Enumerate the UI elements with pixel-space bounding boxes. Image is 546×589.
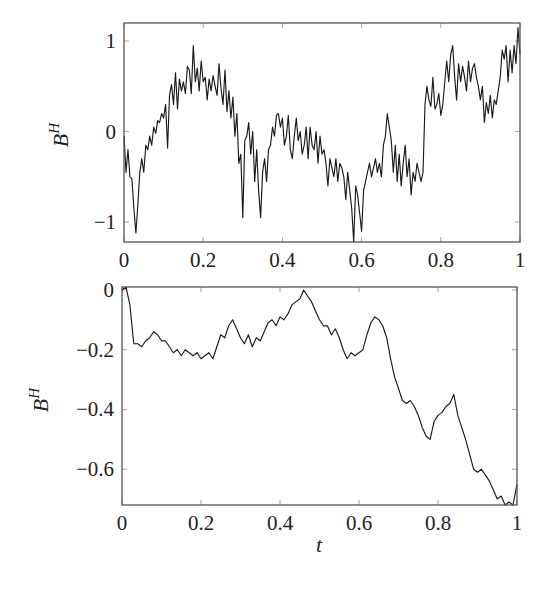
x-tick-label: 0.4 [267,511,294,535]
y-tick-label: 1 [106,29,117,53]
x-tick-label: 0.8 [425,511,451,535]
top-chart-ticks [124,23,520,242]
svg-text:BH: BH [46,122,73,147]
top-chart: 00.20.40.60.81 −101 BH [46,23,525,272]
figure: 00.20.40.60.81 −101 BH 00.20.40.60.81 −0… [0,0,546,589]
y-tick-label: −0.6 [76,457,114,481]
x-tick-label: 0 [117,511,128,535]
y-axis-label-base: B [48,134,73,147]
top-chart-y-axis-label: BH [46,122,73,147]
y-tick-label: 0 [106,120,117,144]
x-tick-label: 1 [512,511,523,535]
x-tick-label: 1 [515,248,526,272]
y-axis-label-base: B [28,399,53,412]
bottom-chart-y-tick-labels: −0.6−0.4−0.20 [76,278,115,481]
y-tick-label: −0.2 [76,338,114,362]
top-chart-frame [124,23,520,242]
x-tick-label: 0.6 [346,511,372,535]
y-axis-label-sup: H [26,387,42,400]
y-tick-label: 0 [104,278,115,302]
top-chart-line [124,28,520,243]
bottom-chart: 00.20.40.60.81 −0.6−0.4−0.20 BH t [26,278,522,557]
y-tick-label: −1 [94,210,116,234]
bottom-chart-line [122,287,517,505]
x-tick-label: 0.8 [428,248,454,272]
y-axis-label-sup: H [46,122,62,135]
top-chart-y-tick-labels: −101 [94,29,116,234]
x-tick-label: 0.6 [348,248,374,272]
bottom-chart-y-axis-label: BH [26,387,53,412]
top-chart-x-tick-labels: 00.20.40.60.81 [119,248,526,272]
y-tick-label: −0.4 [76,397,115,421]
svg-text:BH: BH [26,387,53,412]
x-tick-label: 0.2 [190,248,216,272]
x-tick-label: 0 [119,248,130,272]
bottom-chart-x-axis-label: t [316,532,323,557]
x-tick-label: 0.4 [269,248,296,272]
x-tick-label: 0.2 [188,511,214,535]
